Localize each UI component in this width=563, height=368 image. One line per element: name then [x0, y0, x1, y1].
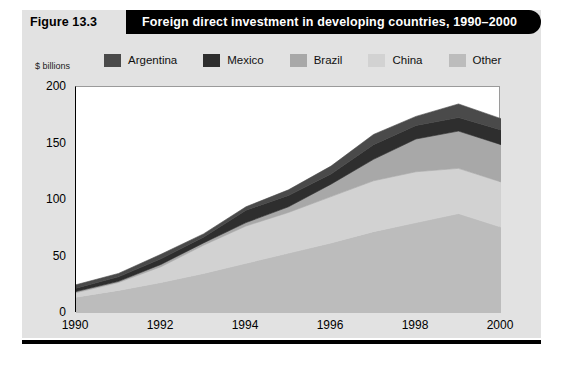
y-tick-200: 200: [20, 79, 66, 93]
legend-item-other: Other: [449, 54, 502, 67]
x-tick-1990: 1990: [45, 318, 105, 332]
figure-header: Figure 13.3 Foreign direct investment in…: [22, 10, 541, 34]
y-axis-unit-label: $ billions: [35, 61, 70, 71]
x-tick-1994: 1994: [215, 318, 275, 332]
legend-swatch-brazil: [290, 54, 307, 67]
legend-swatch-argentina: [104, 54, 121, 67]
y-tick-50: 50: [20, 249, 66, 263]
legend-label-brazil: Brazil: [314, 54, 343, 66]
x-tick-1992: 1992: [130, 318, 190, 332]
legend-label-argentina: Argentina: [128, 54, 177, 66]
chart-legend: Argentina Mexico Brazil China Other: [104, 52, 527, 68]
y-tick-150: 150: [20, 136, 66, 150]
x-tick-2000: 2000: [470, 318, 530, 332]
bottom-rule: [22, 340, 541, 344]
legend-label-china: China: [392, 54, 422, 66]
figure-title: Foreign direct investment in developing …: [142, 10, 517, 34]
legend-label-mexico: Mexico: [227, 54, 263, 66]
figure-number: Figure 13.3: [30, 10, 97, 34]
figure-title-bar: Foreign direct investment in developing …: [126, 10, 541, 34]
legend-item-argentina: Argentina: [104, 54, 177, 67]
figure-container: Figure 13.3 Foreign direct investment in…: [0, 0, 563, 368]
legend-swatch-china: [368, 54, 385, 67]
legend-item-brazil: Brazil: [290, 54, 343, 67]
stacked-area-chart: [76, 87, 501, 313]
x-tick-1998: 1998: [385, 318, 445, 332]
plot-area: [75, 86, 500, 312]
y-tick-100: 100: [20, 192, 66, 206]
x-tick-1996: 1996: [300, 318, 360, 332]
legend-label-other: Other: [473, 54, 502, 66]
legend-item-china: China: [368, 54, 422, 67]
y-tick-0: 0: [20, 305, 66, 319]
legend-item-mexico: Mexico: [203, 54, 263, 67]
legend-swatch-mexico: [203, 54, 220, 67]
legend-swatch-other: [449, 54, 466, 67]
